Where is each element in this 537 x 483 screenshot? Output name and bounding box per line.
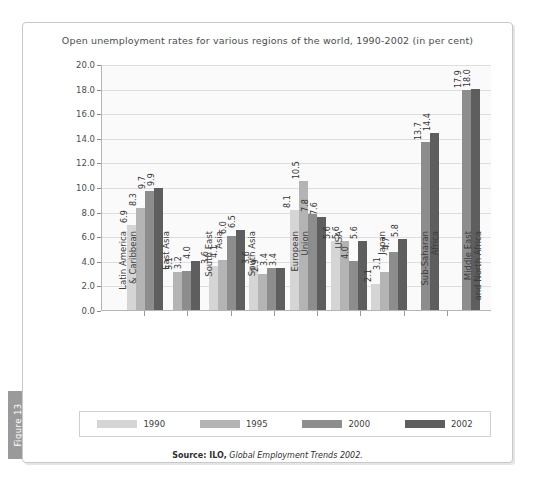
source-title: Global Employment Trends 2002. <box>229 451 363 460</box>
x-axis-category: Middle Eastand North Africa <box>448 315 491 401</box>
category-label-line1: Sub-Saharan <box>420 231 430 286</box>
legend-item: 2002 <box>405 419 473 429</box>
figure-frame: Open unemployment rates for various regi… <box>22 22 513 463</box>
x-axis-category: South EastAsia <box>188 315 231 401</box>
y-axis-tick-label: 4.0 <box>35 257 95 267</box>
bar-value-label: 5.6 <box>350 226 359 239</box>
bar: 3.1 <box>173 272 182 310</box>
y-axis-tick-mark <box>97 114 101 115</box>
bar-value-label: 13.7 <box>414 122 423 140</box>
bar-value-label: 8.3 <box>129 193 138 206</box>
bar-value-label: 2.1 <box>364 269 373 282</box>
x-axis-category: EuropeanUnion <box>275 315 318 401</box>
y-axis-tick-label: 14.0 <box>35 134 95 144</box>
category-label-line2: Asia <box>214 231 224 315</box>
legend-swatch <box>200 420 240 428</box>
bar-value-label: 18.0 <box>463 69 472 87</box>
y-axis-tick-mark <box>97 213 101 214</box>
bar: 2.9 <box>258 274 267 310</box>
x-axis-category-label: USA <box>334 231 344 315</box>
bar: 3.2 <box>182 271 191 310</box>
y-axis-tick-mark <box>97 139 101 140</box>
chart-legend: 1990199520002002 <box>79 411 491 437</box>
y-axis-tick-mark <box>97 262 101 263</box>
y-axis-tick-mark <box>97 311 101 312</box>
bar-value-label: 3.4 <box>260 253 269 266</box>
category-label-line1: European <box>290 231 300 272</box>
bar: 3.4 <box>267 268 276 310</box>
x-axis-category-label: Latin America& Caribbean <box>118 231 138 315</box>
legend-swatch <box>97 420 137 428</box>
bar: 3.4 <box>276 268 285 310</box>
bar-value-label: 3.2 <box>174 256 183 269</box>
y-axis-tick-label: 8.0 <box>35 208 95 218</box>
category-label-line2: Africa <box>430 231 440 315</box>
y-axis-tick-mark <box>97 65 101 66</box>
y-axis-tick-label: 20.0 <box>35 60 95 70</box>
category-label-line1: East Asia <box>161 231 171 270</box>
x-axis-category: South Asia <box>232 315 275 401</box>
bar-value-label: 9.7 <box>138 176 147 189</box>
legend-swatch <box>405 420 445 428</box>
category-label-line1: South East <box>204 231 214 277</box>
bar: 4.7 <box>389 252 398 310</box>
source-note: Source: ILO, Global Employment Trends 20… <box>23 451 512 460</box>
x-axis-category: Latin America& Caribbean <box>102 315 145 401</box>
bar-group: 3.13.24.0 <box>166 65 207 310</box>
x-axis-category: Sub-SaharanAfrica <box>405 315 448 401</box>
bar-value-label: 7.6 <box>310 202 319 215</box>
bar-value-label: 7.8 <box>301 199 310 212</box>
bar: 6.5 <box>236 230 245 310</box>
y-axis-tick-label: 10.0 <box>35 183 95 193</box>
y-axis-tick-mark <box>97 286 101 287</box>
bar-value-label: 14.4 <box>423 113 432 131</box>
category-label-line2: Union <box>300 231 310 315</box>
category-label-line2: and North Africa <box>473 231 483 315</box>
bar: 6.0 <box>227 236 236 310</box>
y-axis-tick-label: 2.0 <box>35 281 95 291</box>
legend-label: 2002 <box>451 419 473 429</box>
x-axis-category-label: Middle Eastand North Africa <box>463 231 483 315</box>
legend-item: 1995 <box>200 419 268 429</box>
x-axis-category-label: South EastAsia <box>204 231 224 315</box>
legend-label: 1990 <box>143 419 165 429</box>
bar: 5.8 <box>398 239 407 310</box>
y-axis-tick-label: 16.0 <box>35 109 95 119</box>
legend-swatch <box>302 420 342 428</box>
source-lead: Source: ILO, <box>172 451 227 460</box>
bar: 4.0 <box>191 261 200 310</box>
y-axis-tick-label: 0.0 <box>35 306 95 316</box>
x-axis-category-label: Sub-SaharanAfrica <box>420 231 440 315</box>
bar-value-label: 8.1 <box>283 196 292 209</box>
category-label-line1: Middle East <box>463 231 473 280</box>
bar-value-label: 5.8 <box>391 224 400 237</box>
y-axis-tick-label: 18.0 <box>35 85 95 95</box>
category-label-line1: South Asia <box>247 231 257 276</box>
y-axis-tick-mark <box>97 237 101 238</box>
category-label-line2: & Caribbean <box>128 231 138 315</box>
y-axis-tick-mark <box>97 90 101 91</box>
bar-value-label: 6.5 <box>228 215 237 228</box>
x-axis-category-label: East Asia <box>161 231 171 315</box>
x-axis-category: East Asia <box>145 315 188 401</box>
bar-group: 2.13.14.75.8 <box>369 65 410 310</box>
category-label-line1: USA <box>334 231 344 249</box>
bar-value-label: 9.9 <box>147 174 156 187</box>
bar-value-label: 4.0 <box>183 246 192 259</box>
legend-item: 2000 <box>302 419 370 429</box>
y-axis-tick-label: 6.0 <box>35 232 95 242</box>
bar-value-label: 5.6 <box>323 226 332 239</box>
category-label-line1: Latin America <box>118 231 128 290</box>
chart-title: Open unemployment rates for various regi… <box>23 35 512 46</box>
bar-value-label: 6.9 <box>120 210 129 223</box>
y-axis-tick-mark <box>97 188 101 189</box>
bar-value-label: 3.4 <box>269 253 278 266</box>
x-axis-category: USA <box>318 315 361 401</box>
bar-value-label: 10.5 <box>292 161 301 179</box>
x-axis-category-labels: Latin America& CaribbeanEast AsiaSouth E… <box>102 315 491 401</box>
x-axis-category-label: South Asia <box>247 231 257 315</box>
bar: 9.7 <box>145 191 154 310</box>
bar-value-label: 17.9 <box>454 70 463 88</box>
category-label-line1: Japan <box>377 231 387 255</box>
legend-item: 1990 <box>97 419 165 429</box>
